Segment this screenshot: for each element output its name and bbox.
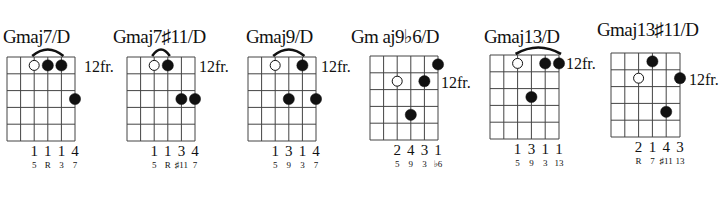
finger-number: 4 — [659, 140, 673, 155]
finger-number: 3 — [673, 140, 687, 155]
finger-dot-icon — [674, 73, 685, 84]
finger-dot-icon — [661, 106, 672, 117]
finger-number: 1 — [645, 140, 659, 155]
root-note-open-dot-icon — [634, 73, 644, 83]
interval-label: 13 — [672, 157, 688, 166]
finger-dot-icon — [647, 56, 658, 67]
chord-diagram-gmaj13s11-d: Gmaj13♯11/D 12fr. 2143R7♯1113 — [0, 0, 725, 215]
finger-number: 2 — [632, 140, 646, 155]
